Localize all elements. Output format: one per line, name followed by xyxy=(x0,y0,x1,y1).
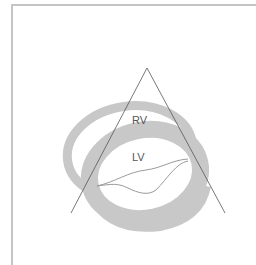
lv-wall xyxy=(81,119,209,228)
lv-label: LV xyxy=(132,151,145,163)
heart-cross-section-diagram: RV LV xyxy=(0,0,256,265)
rv-label: RV xyxy=(132,114,148,126)
